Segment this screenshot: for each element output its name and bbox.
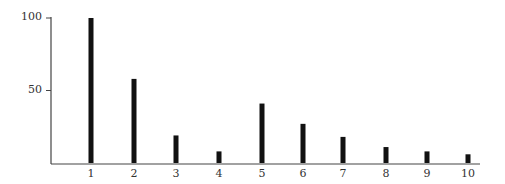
bars bbox=[89, 18, 471, 163]
x-tick-label: 6 bbox=[291, 167, 315, 180]
bar-7 bbox=[341, 137, 346, 163]
x-tick-label: 8 bbox=[374, 167, 398, 180]
bar-6 bbox=[301, 124, 306, 163]
x-tick-label: 4 bbox=[207, 167, 231, 180]
x-tick-label: 10 bbox=[456, 167, 480, 180]
x-tick-label: 3 bbox=[164, 167, 188, 180]
y-tick-label: 50 bbox=[12, 83, 42, 96]
y-ticks bbox=[46, 18, 51, 91]
bar-5 bbox=[260, 104, 265, 163]
chart-canvas bbox=[0, 0, 505, 184]
bar-chart: 50100 12345678910 bbox=[0, 0, 505, 184]
x-tick-label: 9 bbox=[415, 167, 439, 180]
y-tick-label: 100 bbox=[12, 10, 42, 23]
bar-4 bbox=[217, 151, 222, 163]
x-tick-label: 5 bbox=[250, 167, 274, 180]
bar-8 bbox=[384, 147, 389, 163]
bar-10 bbox=[466, 154, 471, 163]
x-tick-label: 7 bbox=[331, 167, 355, 180]
bar-2 bbox=[132, 79, 137, 163]
x-tick-label: 1 bbox=[79, 167, 103, 180]
bar-9 bbox=[425, 151, 430, 163]
bar-3 bbox=[174, 135, 179, 163]
bar-1 bbox=[89, 18, 94, 163]
x-tick-label: 2 bbox=[122, 167, 146, 180]
